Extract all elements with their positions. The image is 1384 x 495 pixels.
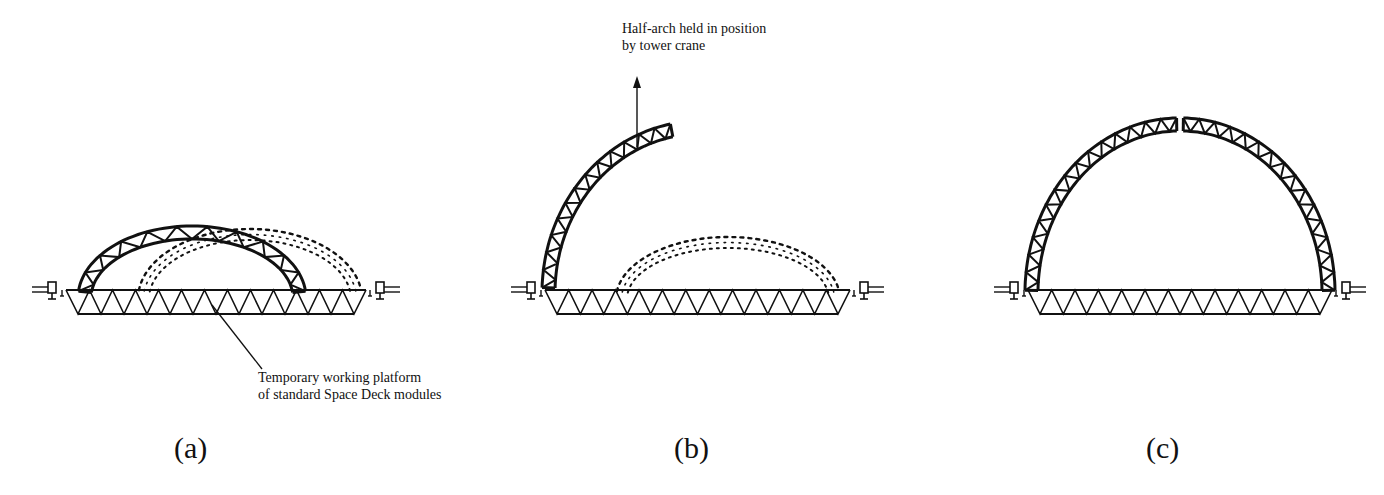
panel-label-a: (a) bbox=[174, 431, 207, 465]
platform-annotation-line-1: Temporary working platform bbox=[258, 369, 442, 386]
crane-annotation-line-2: by tower crane bbox=[622, 37, 766, 54]
crane-annotation: Half-arch held in position by tower cran… bbox=[622, 20, 766, 54]
bearing-support bbox=[852, 282, 884, 299]
arch-segment-dotted-position bbox=[139, 229, 361, 292]
crane-annotation-line-1: Half-arch held in position bbox=[622, 20, 766, 37]
panel-b-diagram bbox=[511, 76, 884, 314]
arrow-up-icon bbox=[633, 76, 641, 88]
arch-segment-dotted-position bbox=[617, 237, 839, 293]
platform-annotation-line-2: of standard Space Deck modules bbox=[258, 386, 442, 403]
bearing-support bbox=[511, 282, 543, 299]
erection-sequence-diagram bbox=[0, 0, 1384, 495]
bearing-support bbox=[32, 282, 64, 299]
panel-c-diagram bbox=[994, 118, 1366, 314]
space-deck-platform bbox=[994, 282, 1366, 314]
bearing-support bbox=[368, 282, 400, 299]
panel-label-b: (b) bbox=[674, 431, 709, 465]
left-half-arch bbox=[1025, 118, 1177, 291]
bearing-support bbox=[994, 282, 1026, 299]
panel-a-diagram bbox=[32, 226, 400, 369]
half-arch-segment bbox=[542, 124, 673, 288]
panel-label-c: (c) bbox=[1146, 431, 1179, 465]
bearing-support bbox=[1334, 282, 1366, 299]
space-deck-platform bbox=[511, 282, 884, 314]
platform-annotation: Temporary working platform of standard S… bbox=[258, 369, 442, 403]
right-half-arch bbox=[1183, 118, 1335, 291]
